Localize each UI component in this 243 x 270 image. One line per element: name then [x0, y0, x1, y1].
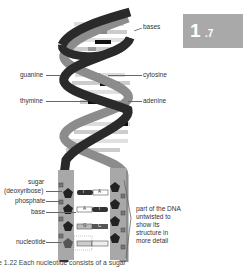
badge-number: 1	[190, 20, 201, 42]
base-letter: G	[83, 224, 87, 229]
label-nucleotide: nucleotide	[16, 239, 46, 246]
cytosine-leader-line	[108, 75, 142, 76]
guanine-leader-line	[46, 75, 60, 76]
section-badge: 1 .7	[183, 14, 243, 48]
thymine-leader-line	[46, 101, 88, 102]
label-cytosine: cytosine	[143, 72, 167, 79]
badge-subnumber: .7	[205, 28, 213, 39]
label-bases: bases	[143, 24, 160, 31]
label-sugar: sugar	[28, 179, 44, 186]
label-phosphate: phosphate	[15, 198, 45, 205]
sugar-leader-line	[46, 191, 62, 192]
label-untwisted-1: part of the DNA	[136, 206, 181, 213]
base-letter: T	[82, 190, 85, 195]
label-untwisted-4: structure in	[136, 230, 168, 237]
label-deoxyribose: (deoxyribose)	[4, 188, 43, 195]
base-letter: A	[98, 190, 101, 195]
nucleotide-leader-line	[46, 242, 62, 243]
base-letter: C	[98, 224, 101, 229]
label-base: base	[31, 209, 45, 216]
label-guanine: guanine	[20, 72, 43, 79]
adenine-leader-line	[128, 101, 142, 102]
base-letter: T	[98, 207, 101, 212]
untwisted-base-pairs	[77, 190, 108, 246]
label-thymine: thymine	[20, 98, 43, 105]
phosphate-leader-line	[46, 201, 59, 202]
base-leader-line	[46, 212, 76, 213]
label-untwisted-3: show its	[136, 222, 159, 229]
figure-caption: ure 1.22 Each nucleotide consists of a s…	[0, 259, 126, 266]
base-letter: A	[83, 207, 86, 212]
label-untwisted-2: untwisted to	[136, 214, 171, 221]
label-untwisted-5: more detail	[136, 238, 168, 245]
label-adenine: adenine	[143, 98, 166, 105]
